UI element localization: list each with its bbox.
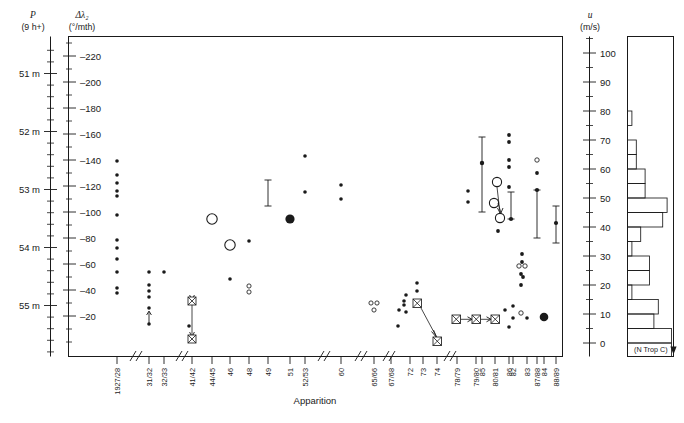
data-column-74 <box>433 337 442 346</box>
u-axis-units: (m/s) <box>580 22 600 32</box>
dlambda-tick-label-7: –80 <box>80 233 96 244</box>
histogram-bars <box>628 111 672 357</box>
crossed-square-marker <box>188 297 196 305</box>
u-tick-label-3: 70 <box>600 135 611 146</box>
x-tick-label-0: 1927/28 <box>113 368 122 395</box>
dlambda-tick-label-5: –120 <box>80 181 101 192</box>
x-tick-label-18: 80/81 <box>491 368 500 387</box>
crossed-square-marker <box>472 315 481 324</box>
u-tick-label-4: 60 <box>600 164 611 175</box>
left-inner-axis-header: Δλ₂ (°/mth) <box>69 10 96 32</box>
x-tick-label-4: 44/45 <box>208 368 217 387</box>
data-column-46 <box>225 240 235 281</box>
x-tick-label-9: 52/53 <box>301 368 310 387</box>
data-column-80-81 <box>491 308 507 323</box>
data-column-32-33 <box>162 270 166 274</box>
data-column-1927-28 <box>115 159 119 295</box>
x-tick-label-16: 78/79 <box>453 368 462 387</box>
data-column-78-79 <box>452 315 472 324</box>
data-column-48 <box>247 239 251 294</box>
u-tick-label-6: 40 <box>600 222 611 233</box>
data-column-49 <box>265 180 272 206</box>
x-tick-label-7: 49 <box>264 368 273 376</box>
dlambda-axis-title: Δλ₂ <box>75 10 90 20</box>
data-column-79-80 <box>472 315 491 324</box>
x-tick-label-2: 32/33 <box>160 368 169 387</box>
crossed-square-marker <box>433 337 442 346</box>
data-column-65-66 <box>369 301 379 312</box>
data-column-51 <box>285 214 294 223</box>
u-tick-label-2: 80 <box>600 106 611 117</box>
x-tick-label-12: 67/68 <box>387 368 396 387</box>
dlambda-tick-label-2: –180 <box>80 103 101 114</box>
x-tick-label-6: 48 <box>245 368 254 376</box>
right-axis-header: u (m/s) <box>580 10 600 32</box>
data-column-41-42 <box>187 295 196 343</box>
crossed-square-marker <box>491 315 500 324</box>
x-tick-label-23: 86 <box>505 368 514 376</box>
dlambda-tick-label-6: –100 <box>80 207 101 218</box>
dlambda-tick-label-0: –220 <box>80 51 101 62</box>
p-tick-label-1: 52 m <box>19 126 40 137</box>
data-column-87-88 <box>534 158 541 238</box>
data-column-83 <box>525 316 529 320</box>
p-axis: 51 m 52 m 53 m 54 m 55 m <box>19 37 57 357</box>
x-tick-label-10: 60 <box>337 368 346 376</box>
dlambda-tick-label-1: –200 <box>80 77 101 88</box>
dlambda-tick-label-8: –60 <box>80 259 96 270</box>
dlambda-tick-label-4: –140 <box>80 155 101 166</box>
x-tick-label-5: 46 <box>226 368 235 376</box>
x-tick-label-20: 83 <box>523 368 532 376</box>
crossed-square-marker <box>452 315 461 324</box>
data-points-group <box>115 133 559 345</box>
x-tick-label-24: 87/88 <box>533 368 542 387</box>
data-column-88-89 <box>517 206 560 315</box>
x-axis-title: Apparition <box>294 395 337 406</box>
p-axis-title: P <box>29 10 36 20</box>
left-outer-axis-header: P (9 h+) <box>21 10 44 32</box>
x-tick-label-1: 31/32 <box>145 368 154 387</box>
u-tick-label-0: 100 <box>600 48 616 59</box>
u-tick-label-8: 20 <box>600 280 611 291</box>
u-axis: 100 90 80 70 60 50 40 30 20 10 0 <box>583 37 616 357</box>
crossed-square-marker <box>188 335 196 343</box>
u-tick-label-1: 90 <box>600 77 611 88</box>
p-tick-label-4: 55 m <box>19 300 40 311</box>
x-tick-label-13: 72 <box>406 368 415 376</box>
x-tick-label-25: 88/89 <box>552 368 561 387</box>
dlambda-tick-label-10: –20 <box>80 311 96 322</box>
figure-container: P (9 h+) Δλ₂ (°/mth) u (m/s) <box>0 0 684 423</box>
u-tick-label-10: 0 <box>600 338 605 349</box>
data-column-31-32 <box>147 270 152 326</box>
u-axis-title: u <box>588 10 593 20</box>
data-column-86 <box>489 133 514 222</box>
data-column-60 <box>339 183 343 201</box>
u-tick-label-9: 10 <box>600 309 611 320</box>
dlambda-axis-units: (°/mth) <box>69 22 96 32</box>
x-axis: 1927/28 31/32 32/33 41/42 44/45 46 48 49… <box>113 351 561 395</box>
x-tick-label-3: 41/42 <box>188 368 197 387</box>
dlambda-tick-label-9: –40 <box>80 285 96 296</box>
data-column-52-53 <box>303 154 307 194</box>
data-column-85 <box>466 137 485 212</box>
x-tick-label-8: 51 <box>286 368 295 376</box>
p-tick-label-3: 54 m <box>19 242 40 253</box>
histogram-panel: (N Trop C) <box>628 37 677 357</box>
x-tick-label-14: 73 <box>419 368 428 376</box>
data-column-72 <box>396 293 408 328</box>
p-tick-label-0: 51 m <box>19 68 40 79</box>
data-column-73 <box>413 281 437 338</box>
crossed-square-marker <box>413 299 422 308</box>
data-column-90-91 <box>496 229 500 233</box>
u-tick-label-7: 30 <box>600 251 611 262</box>
data-column-44-45 <box>207 214 217 224</box>
data-column-84 <box>466 189 548 321</box>
data-column-82 <box>507 304 515 329</box>
x-tick-label-15: 74 <box>433 368 442 376</box>
x-tick-label-11: 65/66 <box>370 368 379 387</box>
x-tick-label-22: 85 <box>478 368 487 376</box>
p-axis-units: (9 h+) <box>21 22 44 32</box>
main-plot-frame <box>69 37 563 357</box>
u-tick-label-5: 50 <box>600 193 611 204</box>
p-tick-label-2: 53 m <box>19 184 40 195</box>
